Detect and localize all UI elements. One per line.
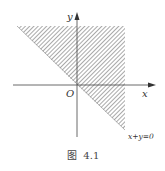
origin-label: O <box>66 88 74 99</box>
boundary-label: x+y=0 <box>128 132 154 141</box>
y-axis-label: y <box>66 11 73 22</box>
x-axis-label: x <box>142 88 148 99</box>
y-axis-arrow-icon <box>75 12 80 20</box>
x-axis-arrow-icon <box>148 83 156 88</box>
region-diagram: y x O x+y=0 图 4.1 <box>0 0 165 171</box>
figure-caption: 图 4.1 <box>67 150 99 161</box>
